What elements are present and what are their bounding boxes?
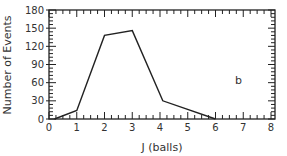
- x-tick-label: 3: [129, 122, 135, 133]
- y-tick-label: 180: [25, 5, 44, 16]
- x-tick-label: 4: [157, 122, 163, 133]
- x-tick-label: 5: [185, 122, 191, 133]
- line-chart: 0123456780306090120150180 J (balls) Numb…: [0, 0, 287, 156]
- y-tick-label: 120: [25, 41, 44, 52]
- y-tick-label: 30: [31, 95, 44, 106]
- x-tick-label: 1: [74, 122, 80, 133]
- x-tick-label: 7: [240, 122, 246, 133]
- plot-frame: [49, 10, 275, 119]
- y-tick-label: 150: [25, 23, 44, 34]
- y-tick-label: 60: [31, 77, 44, 88]
- x-tick-label: 0: [46, 122, 52, 133]
- y-tick-label: 90: [31, 59, 44, 70]
- y-tick-label: 0: [38, 114, 44, 125]
- panel-label: b: [235, 74, 242, 87]
- x-tick-label: 8: [268, 122, 274, 133]
- x-tick-label: 2: [101, 122, 107, 133]
- y-axis-title: Number of Events: [1, 15, 14, 114]
- x-axis-title: J (balls): [141, 141, 183, 154]
- data-line: [55, 31, 216, 119]
- x-tick-label: 6: [212, 122, 218, 133]
